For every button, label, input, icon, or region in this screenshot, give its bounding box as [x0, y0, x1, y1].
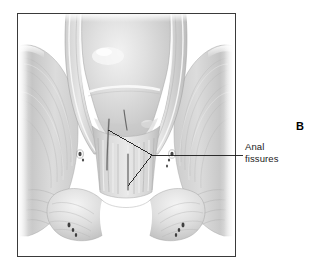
panel-letter-b: B	[296, 120, 304, 132]
label-anal-fissures-line2: fissures	[245, 153, 279, 165]
label-anal-fissures-line1: Anal	[245, 141, 279, 153]
anatomical-illustration	[18, 14, 234, 255]
label-anal-fissures: Anal fissures	[245, 141, 279, 164]
figure-frame	[17, 13, 236, 257]
